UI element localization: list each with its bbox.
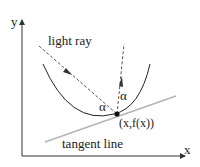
tangent-line-label: tangent line <box>62 137 123 150</box>
light-ray-label: light ray <box>48 34 92 47</box>
x-axis-label: x <box>184 143 191 156</box>
parabola-curve <box>43 64 150 116</box>
incident-ray-arrow-icon <box>63 68 72 75</box>
point-label: (x,f(x)) <box>119 117 154 129</box>
reflected-angle-label: α <box>120 89 127 102</box>
y-axis-label: y <box>11 15 18 28</box>
reflected-ray <box>117 44 124 114</box>
incident-angle-label: α <box>99 100 106 113</box>
